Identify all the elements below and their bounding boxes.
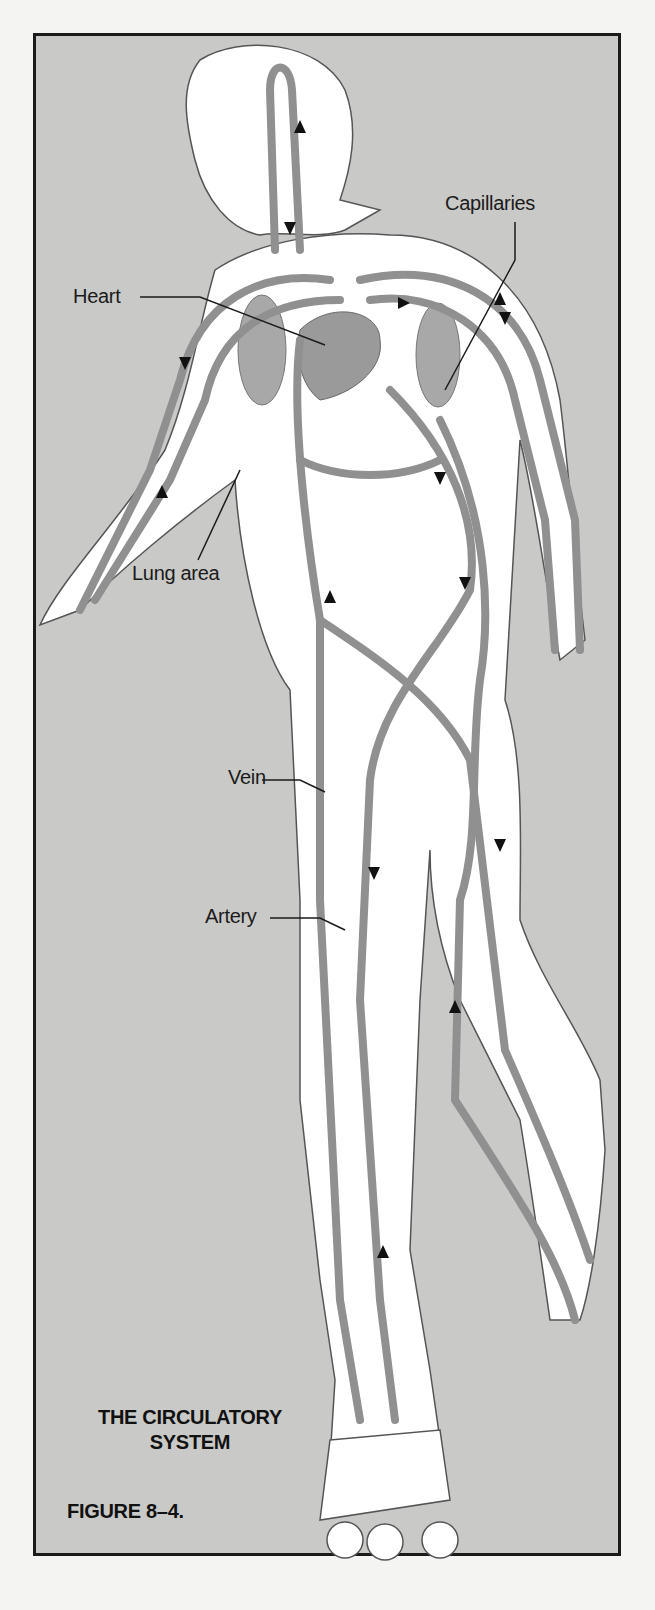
head <box>186 45 380 235</box>
label-capillaries: Capillaries <box>445 192 535 215</box>
label-heart: Heart <box>73 285 120 308</box>
figure-title: THE CIRCULATORY SYSTEM <box>60 1405 320 1455</box>
figure-title-line1: THE CIRCULATORY <box>60 1405 320 1430</box>
right-lung <box>416 303 460 407</box>
label-vein: Vein <box>228 766 266 789</box>
figure-caption: FIGURE 8–4. <box>67 1500 184 1523</box>
figure-title-line2: SYSTEM <box>60 1430 320 1455</box>
circulatory-illustration <box>0 0 655 1610</box>
roller-skate <box>320 1430 450 1520</box>
label-lung-area: Lung area <box>132 562 219 585</box>
label-artery: Artery <box>205 905 257 928</box>
